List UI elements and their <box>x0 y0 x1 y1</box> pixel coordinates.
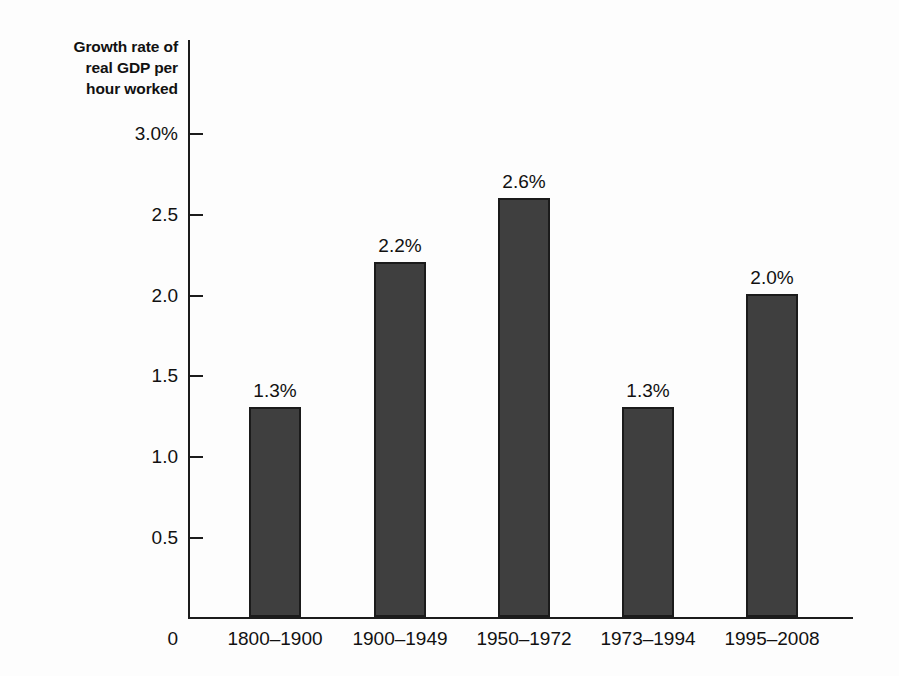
y-tick-label-0-5: 0.5 <box>100 528 178 547</box>
y-tick-labels: 3.0% 2.5 2.0 1.5 1.0 0.5 <box>100 0 178 676</box>
y-tick-label-1-0: 1.0 <box>100 447 178 466</box>
bar-1950-1972 <box>498 198 550 617</box>
y-axis-origin-label: 0 <box>100 628 178 650</box>
bar-value-1973-1994: 1.3% <box>598 381 698 400</box>
bar-value-1995-2008: 2.0% <box>722 268 822 287</box>
y-tick-mark-1-5 <box>190 375 203 377</box>
y-tick-label-1-5: 1.5 <box>100 366 178 385</box>
y-tick-mark-1-0 <box>190 456 203 458</box>
y-tick-mark-2-0 <box>190 295 203 297</box>
bar-1995-2008 <box>746 294 798 617</box>
bar-value-1900-1949: 2.2% <box>350 236 450 255</box>
y-tick-label-2-5: 2.5 <box>100 205 178 224</box>
bar-value-1950-1972: 2.6% <box>474 172 574 191</box>
y-tick-mark-0-5 <box>190 537 203 539</box>
bar-1973-1994 <box>622 407 674 617</box>
bar-1900-1949 <box>374 262 426 617</box>
y-tick-mark-2-5 <box>190 214 203 216</box>
y-tick-label-3-0: 3.0% <box>100 124 178 143</box>
y-tick-label-2-0: 2.0 <box>100 286 178 305</box>
x-category-label-1995-2008: 1995–2008 <box>692 628 852 650</box>
y-axis-line <box>188 40 190 619</box>
bar-value-1800-1900: 1.3% <box>225 381 325 400</box>
x-axis-line <box>188 617 853 619</box>
chart-figure: Growth rate of real GDP per hour worked … <box>0 0 899 676</box>
bar-1800-1900 <box>249 407 301 617</box>
y-tick-mark-3-0 <box>190 133 203 135</box>
